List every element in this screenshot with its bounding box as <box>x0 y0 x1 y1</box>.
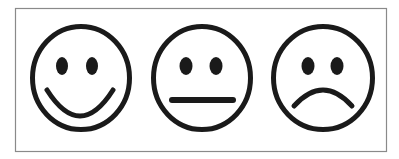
happy-face-left-eye <box>56 57 68 75</box>
neutral-face-right-eye <box>210 57 223 75</box>
happy-face-right-eye <box>86 57 98 75</box>
sad-face-left-eye <box>302 57 315 75</box>
sad-face-right-eye <box>331 57 344 75</box>
neutral-face-left-eye <box>180 57 193 75</box>
faces-scale-svg <box>0 0 399 159</box>
faces-scale: Satisfaction faces scale Happy face Neut… <box>0 0 399 159</box>
